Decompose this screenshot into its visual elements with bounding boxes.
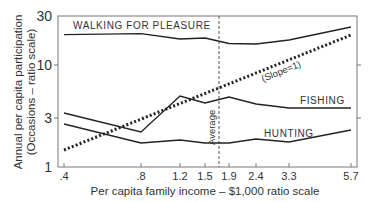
y-tick-3: 3: [44, 110, 52, 126]
y-tick-labels: 30 10 3 1: [36, 8, 52, 175]
hunting-label: HUNTING: [264, 128, 314, 139]
average-label-group: Average: [206, 110, 217, 145]
x-tick-label: 2.4: [248, 170, 263, 182]
y-axis-label-line2: (Occasions – ratio scale): [25, 29, 37, 156]
x-tick-label: 3.3: [281, 170, 296, 182]
x-tick-label: 5.7: [343, 170, 358, 182]
slope-label-group: (Slope=1): [260, 58, 303, 84]
y-axis-label: Annual per capita participation (Occasio…: [12, 15, 37, 170]
y-tick-10: 10: [36, 57, 52, 73]
chart-container: 30 10 3 1 .4 .8 1.2 1.5 1.9 2.4 3.3 5.7 …: [0, 0, 374, 202]
y-axis-label-line1: Annual per capita participation: [12, 15, 24, 170]
x-tick-label: 1.9: [221, 170, 236, 182]
x-tick-label: 1.5: [197, 170, 212, 182]
x-tick-label: .4: [59, 170, 68, 182]
y-tick-1: 1: [44, 159, 52, 175]
slope-label: (Slope=1): [260, 58, 303, 84]
y-tick-30: 30: [36, 8, 52, 24]
x-tick-label: .8: [136, 170, 145, 182]
average-label: Average: [206, 110, 217, 145]
walking-label: WALKING FOR PLEASURE: [73, 20, 211, 31]
x-tick-labels: .4 .8 1.2 1.5 1.9 2.4 3.3 5.7: [59, 170, 358, 182]
x-ticks: [64, 163, 351, 167]
x-tick-label: 1.2: [172, 170, 187, 182]
fishing-label: FISHING: [300, 95, 345, 106]
x-axis-label: Per capita family income – $1,000 ratio …: [91, 185, 320, 197]
chart-svg: 30 10 3 1 .4 .8 1.2 1.5 1.9 2.4 3.3 5.7 …: [0, 0, 374, 202]
